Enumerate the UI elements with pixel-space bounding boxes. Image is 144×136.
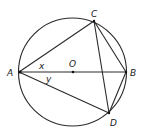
label-B: B (130, 68, 136, 78)
angle-label-y: y (45, 74, 52, 84)
angle-label-x: x (38, 61, 45, 71)
point-D-dot (108, 112, 110, 114)
point-C-dot (93, 20, 95, 22)
point-A-dot (18, 70, 21, 73)
chord-CB (94, 21, 126, 72)
circle-diagram: A B C D O x y (0, 0, 144, 136)
point-O-dot (72, 71, 75, 74)
point-B-dot (125, 71, 127, 73)
chord-AC (19, 21, 94, 72)
label-D: D (110, 118, 117, 128)
label-A: A (6, 68, 13, 78)
label-O: O (69, 59, 76, 69)
chord-CD (94, 21, 109, 113)
chord-AD (19, 72, 109, 113)
chord-BD (109, 72, 126, 113)
label-C: C (91, 9, 98, 19)
